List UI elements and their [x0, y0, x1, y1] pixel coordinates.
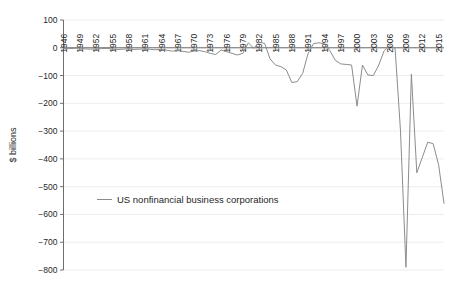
x-tick-label: 1961 [140, 34, 150, 53]
y-axis-title-text: $ billions [8, 127, 18, 163]
chart-figure: 1000−100−200−300−400−500−600−700−800 194… [0, 0, 455, 291]
y-tick-label: −600 [38, 209, 57, 219]
y-tick-label: −700 [38, 237, 57, 247]
x-tick-label: 1976 [222, 34, 232, 53]
x-tick-label: 1991 [303, 34, 313, 53]
x-tick-label: 1988 [287, 34, 297, 53]
chart-legend: US nonfinancial business corporations [97, 194, 279, 205]
x-tick-label: 1967 [173, 34, 183, 53]
x-tick-label: 1949 [75, 34, 85, 53]
y-tick-label: −400 [38, 154, 57, 164]
x-tick-label: 2012 [417, 34, 427, 53]
x-tick-label: 1997 [336, 34, 346, 53]
y-tick-label: −800 [38, 265, 57, 275]
x-tick-label: 2009 [401, 34, 411, 53]
x-tick-label: 2006 [385, 34, 395, 53]
x-tick-label: 1955 [108, 34, 118, 53]
x-tick-label: 1979 [238, 34, 248, 53]
y-axis-title: $ billions [8, 127, 18, 163]
y-tick-label: 100 [43, 15, 57, 25]
x-tick-label: 2015 [434, 34, 444, 53]
x-tick-label: 2003 [369, 34, 379, 53]
y-tick-label: −200 [38, 98, 57, 108]
x-tick-label: 1973 [205, 34, 215, 53]
x-tick-label: 1952 [91, 34, 101, 53]
x-tick-label: 2000 [352, 34, 362, 53]
x-tick-label: 1985 [271, 34, 281, 53]
y-tick-label: 0 [53, 43, 58, 53]
y-tick-label: −500 [38, 182, 57, 192]
y-tick-label: −100 [38, 71, 57, 81]
line-chart: 1000−100−200−300−400−500−600−700−800 194… [0, 0, 455, 291]
y-tick-label: −300 [38, 126, 57, 136]
x-tick-label: 1946 [59, 34, 69, 53]
x-tick-label: 1970 [189, 34, 199, 53]
legend-label: US nonfinancial business corporations [117, 194, 279, 205]
x-tick-label: 1958 [124, 34, 134, 53]
